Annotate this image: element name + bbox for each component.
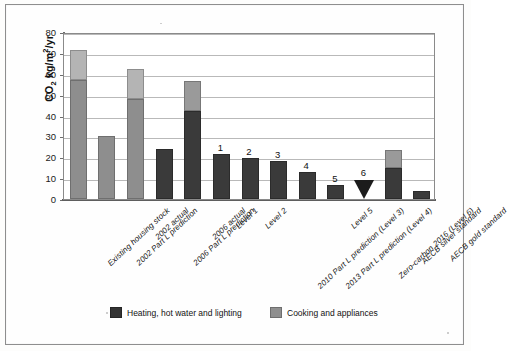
bar-annotation-number: 3 bbox=[270, 150, 286, 160]
bar bbox=[127, 69, 144, 199]
bar-segment-cooking bbox=[127, 69, 144, 99]
bar bbox=[299, 172, 316, 199]
bar bbox=[242, 158, 259, 199]
bar-annotation-number: 4 bbox=[298, 161, 314, 171]
gridline bbox=[64, 138, 434, 139]
scan-artifact bbox=[160, 23, 162, 24]
bar-segment-heating bbox=[156, 149, 173, 199]
bar-segment-heating bbox=[70, 80, 87, 199]
bar-segment-heating bbox=[184, 111, 201, 199]
legend-swatch bbox=[270, 307, 282, 318]
y-tick-label: 30 bbox=[36, 132, 56, 142]
gridline bbox=[64, 34, 434, 35]
bar bbox=[413, 191, 430, 199]
bar-segment-heating bbox=[242, 158, 259, 199]
bar bbox=[385, 150, 402, 199]
bar-segment-heating bbox=[213, 154, 230, 199]
legend-label: Cooking and appliances bbox=[287, 308, 378, 318]
bar bbox=[156, 149, 173, 199]
bar-segment-heating bbox=[413, 191, 430, 199]
y-tick-label: 80 bbox=[36, 28, 56, 38]
bar-segment-heating bbox=[127, 99, 144, 199]
bar-annotation-number: 2 bbox=[241, 147, 257, 157]
legend-item: Cooking and appliances bbox=[270, 307, 378, 318]
legend-swatch bbox=[110, 307, 122, 318]
bar bbox=[213, 154, 230, 199]
bar-segment-cooking bbox=[385, 150, 402, 168]
y-tick-label: 0 bbox=[36, 195, 56, 205]
bar-segment-heating bbox=[299, 172, 316, 199]
scan-artifact bbox=[447, 332, 449, 334]
bar-segment-cooking bbox=[184, 81, 201, 111]
bar-segment-heating bbox=[98, 136, 115, 199]
legend-item: Heating, hot water and lighting bbox=[110, 307, 242, 318]
gridline bbox=[64, 118, 434, 119]
zero-carbon-marker-icon bbox=[354, 180, 374, 199]
y-tick-label: 20 bbox=[36, 153, 56, 163]
y-tick-label: 60 bbox=[36, 70, 56, 80]
bar-segment-heating bbox=[327, 185, 344, 199]
plot-area bbox=[63, 33, 435, 200]
bar bbox=[70, 50, 87, 199]
chart-legend: Heating, hot water and lightingCooking a… bbox=[110, 307, 400, 323]
bar-annotation-number: 1 bbox=[212, 143, 228, 153]
bar-segment-heating bbox=[270, 161, 287, 199]
bar bbox=[327, 185, 344, 199]
gridline bbox=[64, 55, 434, 56]
legend-label: Heating, hot water and lighting bbox=[127, 308, 242, 318]
y-tick-label: 50 bbox=[36, 91, 56, 101]
bar-segment-heating bbox=[385, 168, 402, 199]
bar-annotation-number: 6 bbox=[355, 168, 371, 178]
bar-annotation-number: 5 bbox=[327, 174, 343, 184]
bar bbox=[98, 136, 115, 199]
gridline bbox=[64, 76, 434, 77]
scan-artifact bbox=[106, 312, 108, 314]
y-tick-label: 70 bbox=[36, 49, 56, 59]
y-tick-label: 10 bbox=[36, 174, 56, 184]
bar-segment-cooking bbox=[70, 50, 87, 80]
y-tick-label: 40 bbox=[36, 112, 56, 122]
bar bbox=[270, 161, 287, 199]
bar bbox=[184, 81, 201, 199]
gridline bbox=[64, 97, 434, 98]
